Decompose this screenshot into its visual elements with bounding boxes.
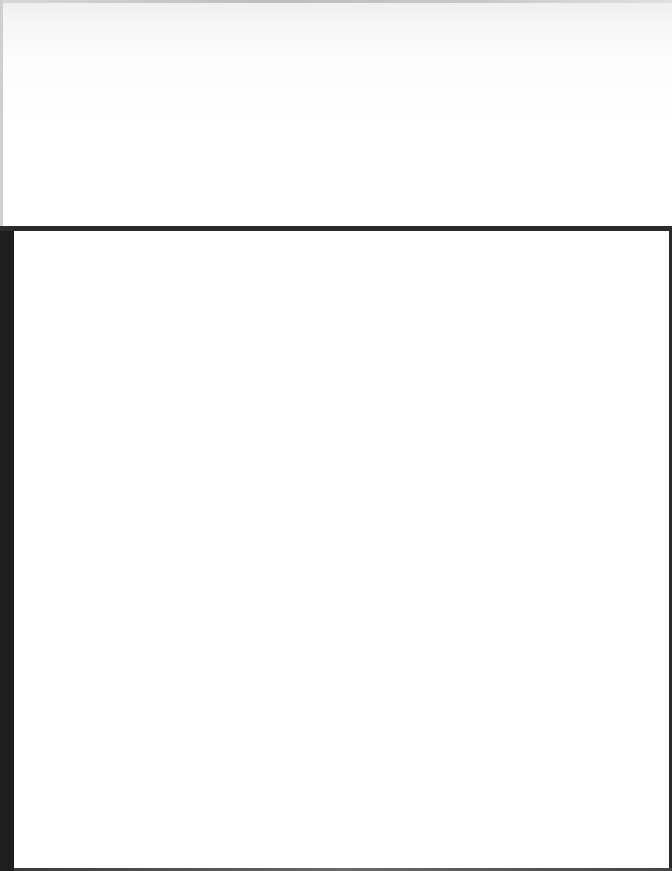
lower-blank-region (14, 231, 669, 868)
top-left-scan-edge (0, 0, 3, 227)
scanned-page (0, 0, 672, 871)
top-scan-edge (0, 0, 672, 3)
left-dark-bar (0, 231, 14, 871)
top-blank-region (0, 0, 672, 227)
